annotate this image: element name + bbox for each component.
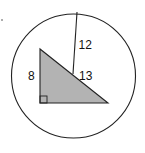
radius-segment	[73, 12, 77, 74]
stray-mark	[1, 19, 3, 21]
label-hypotenuse: 13	[79, 69, 93, 83]
label-radius-segment: 12	[79, 38, 93, 52]
label-vertical-leg: 8	[28, 69, 35, 83]
geometry-figure: 12 13 8	[0, 0, 145, 153]
